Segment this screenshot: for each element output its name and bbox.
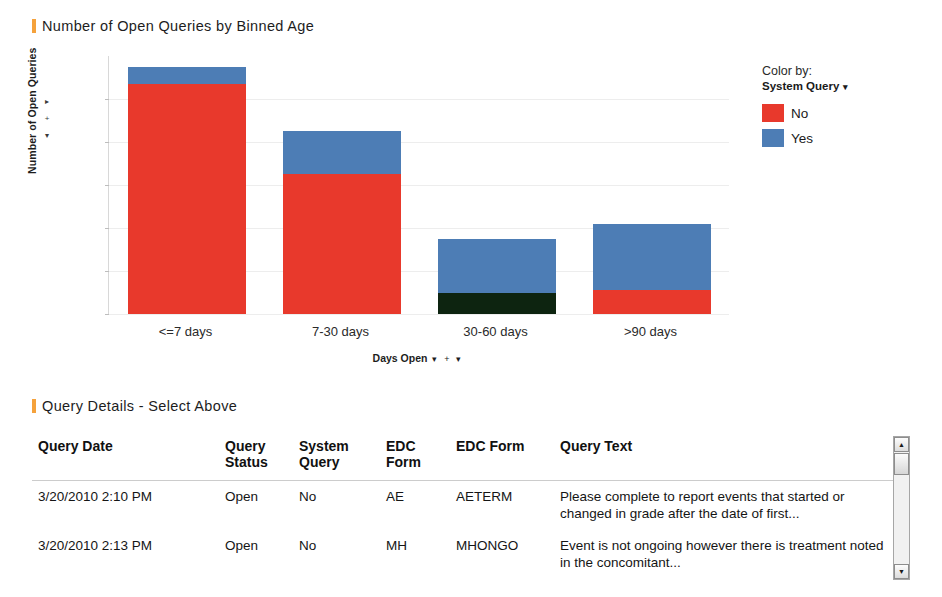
cell-edc-form-1: MH (380, 530, 450, 579)
legend-swatch-icon (762, 104, 784, 122)
x-axis-dropdown-icon[interactable]: ▾ (432, 354, 437, 364)
legend-item-label: No (791, 106, 808, 121)
legend: Color by: System Query▾ NoYes (762, 64, 932, 154)
accent-marker-icon (32, 399, 36, 413)
query-table: Query DateQuery StatusSystem QueryEDC Fo… (32, 432, 896, 578)
legend-caption: Color by: (762, 64, 932, 78)
cell-edc-form-1: AE (380, 481, 450, 530)
cell-query-status: Open (219, 481, 293, 530)
cell-query-text: Please complete to report events that st… (554, 481, 896, 530)
legend-item-label: Yes (791, 131, 813, 146)
legend-item-yes[interactable]: Yes (762, 129, 932, 147)
column-header[interactable]: Query Status (219, 432, 293, 481)
column-header[interactable]: EDC Form (450, 432, 554, 481)
x-axis-tick-label: >90 days (624, 324, 677, 339)
legend-item-no[interactable]: No (762, 104, 932, 122)
query-details-table: Query DateQuery StatusSystem QueryEDC Fo… (32, 432, 910, 582)
table-head: Query DateQuery StatusSystem QueryEDC Fo… (32, 432, 896, 481)
y-axis-controls[interactable]: ▸ + ▾ (40, 98, 54, 140)
chevron-down-icon[interactable]: ▾ (843, 82, 848, 92)
x-axis-tick-label: <=7 days (159, 324, 213, 339)
chart-title: Number of Open Queries by Binned Age (42, 18, 314, 34)
x-axis-dropdown2-icon[interactable]: ▾ (456, 354, 461, 364)
x-axis-title[interactable]: Days Open ▾ + ▾ (108, 352, 728, 364)
x-axis-plus-icon[interactable]: + (444, 354, 449, 364)
cell-query-date: 3/20/2010 2:13 PM (32, 530, 219, 579)
cell-query-text: Event is not ongoing however there is tr… (554, 530, 896, 579)
bar-chart: Number of Open Queries ▸ + ▾ 02040608010… (0, 46, 942, 386)
table-header-row: Query DateQuery StatusSystem QueryEDC Fo… (32, 432, 896, 481)
cell-query-status: Open (219, 530, 293, 579)
x-axis-tick-label: 7-30 days (312, 324, 369, 339)
scrollbar-thumb[interactable] (894, 453, 909, 475)
cell-edc-form-2: AETERM (450, 481, 554, 530)
x-axis-tick-labels: <=7 days7-30 days30-60 days>90 days (108, 324, 728, 344)
table-body: 3/20/2010 2:10 PMOpenNoAEAETERMPlease co… (32, 481, 896, 579)
legend-field-label: System Query (762, 80, 839, 92)
cell-query-date: 3/20/2010 2:10 PM (32, 481, 219, 530)
chart-section-header: Number of Open Queries by Binned Age (32, 18, 314, 34)
y-axis-tick-labels: 020406080100 (108, 56, 728, 314)
y-axis-title: Number of Open Queries (26, 160, 38, 174)
table-row[interactable]: 3/20/2010 2:13 PMOpenNoMHMHONGOEvent is … (32, 530, 896, 579)
x-axis-title-label: Days Open (373, 352, 428, 364)
gridline (109, 314, 729, 315)
accent-marker-icon (32, 19, 36, 33)
y-axis-tick (105, 314, 109, 315)
x-axis-tick-label: 30-60 days (463, 324, 527, 339)
column-header[interactable]: EDC Form (380, 432, 450, 481)
legend-items: NoYes (762, 104, 932, 147)
cell-edc-form-2: MHONGO (450, 530, 554, 579)
table-row[interactable]: 3/20/2010 2:10 PMOpenNoAEAETERMPlease co… (32, 481, 896, 530)
table-section-header: Query Details - Select Above (32, 398, 237, 414)
y-axis-plus-icon[interactable]: + (45, 115, 50, 123)
table-scrollbar[interactable]: ▲ ▼ (893, 436, 910, 580)
column-header[interactable]: System Query (293, 432, 380, 481)
column-header[interactable]: Query Text (554, 432, 896, 481)
legend-swatch-icon (762, 129, 784, 147)
y-axis-expand-icon[interactable]: ▸ (45, 98, 49, 106)
cell-system-query: No (293, 530, 380, 579)
y-axis-dropdown-icon[interactable]: ▾ (45, 132, 49, 140)
scroll-down-icon[interactable]: ▼ (894, 564, 909, 579)
legend-field-selector[interactable]: System Query▾ (762, 80, 932, 92)
column-header[interactable]: Query Date (32, 432, 219, 481)
table-title: Query Details - Select Above (42, 398, 237, 414)
scroll-up-icon[interactable]: ▲ (894, 437, 909, 452)
cell-system-query: No (293, 481, 380, 530)
